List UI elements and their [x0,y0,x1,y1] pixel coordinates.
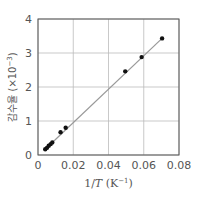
x-tick-label: 0.06 [132,159,157,172]
y-tick-label: 3 [25,47,32,60]
x-tick-label: 0.02 [61,159,86,172]
chart: 01234 00.020.040.060.08 1/T (K−1) 감수율 (×… [0,0,198,200]
y-tick-label: 2 [25,81,32,94]
y-tick-labels: 01234 [25,13,32,162]
data-point [58,130,62,134]
x-tick-label: 0 [35,159,42,172]
data-point [63,126,67,130]
data-point [160,36,164,40]
fit-line [45,38,162,149]
grid-lines [38,19,179,155]
y-axis-label: 감수율 (×10−3) [6,52,18,122]
x-tick-label: 0.08 [167,159,192,172]
y-tick-label: 1 [25,115,32,128]
data-point [139,55,143,59]
y-tick-label: 4 [25,13,32,26]
data-point [123,69,127,73]
x-tick-label: 0.04 [96,159,121,172]
y-tick-label: 0 [25,149,32,162]
x-tick-labels: 00.020.040.060.08 [35,159,192,172]
data-point [50,140,54,144]
x-axis-label: 1/T (K−1) [84,177,133,190]
